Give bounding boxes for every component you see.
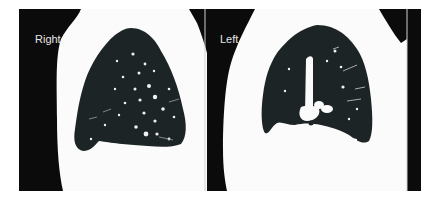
panel-label-left: Left	[220, 33, 238, 45]
ct-panel-right-lung: Right	[19, 9, 207, 191]
left-lung-ct-image	[207, 9, 421, 191]
panel-label-right: Right	[35, 33, 61, 45]
ct-panel-left-lung: Left	[207, 9, 421, 191]
